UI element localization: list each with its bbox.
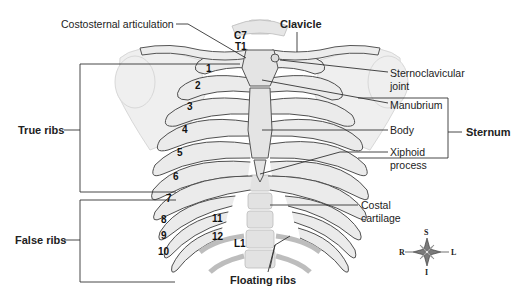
manubrium-label: Manubrium [390, 99, 443, 111]
compass-right-label: R [399, 248, 405, 257]
compass-superior-label: S [424, 228, 428, 237]
costal-cartilage-label-2: cartilage [361, 212, 401, 224]
costal-cartilage-label-1: Costal [361, 199, 391, 211]
rib-cage-illustration [0, 0, 523, 294]
rib-number-5: 5 [177, 147, 183, 158]
rib-number-3: 3 [187, 101, 193, 112]
sternal-body-shape [248, 88, 272, 158]
body-label: Body [390, 124, 414, 136]
rib-number-8: 8 [161, 214, 167, 225]
rib-number-7: 7 [166, 193, 172, 204]
compass-inferior-label: I [425, 268, 428, 277]
true-ribs-label: True ribs [18, 124, 64, 136]
xiphoid-process-label-2: process [390, 159, 427, 171]
rib-number-11: 11 [212, 213, 223, 224]
false-ribs-label: False ribs [15, 234, 66, 246]
sternoclavicular-joint-label-1: Sternoclavicular [390, 67, 465, 79]
compass-left-label: L [451, 248, 456, 257]
sternoclavicular-joint-label-2: joint [390, 80, 409, 92]
rib-number-12: 12 [212, 231, 223, 242]
vertebra-t1-label: T1 [235, 41, 247, 52]
rib-number-1: 1 [206, 63, 212, 74]
costosternal-articulation-label: Costosternal articulation [61, 18, 174, 30]
xiphoid-process-label-1: Xiphoid [390, 146, 425, 158]
compass-rose-icon [405, 238, 449, 266]
rib-number-6: 6 [173, 171, 179, 182]
rib-number-9: 9 [161, 230, 167, 241]
rib-number-10: 10 [158, 246, 169, 257]
floating-ribs-label: Floating ribs [230, 274, 296, 286]
rib-number-2: 2 [195, 80, 201, 91]
vertebra-c7-label: C7 [234, 30, 247, 41]
clavicle-label: Clavicle [280, 18, 322, 30]
sternum-label: Sternum [466, 126, 511, 138]
rib-number-4: 4 [182, 124, 188, 135]
vertebra-l1-label: L1 [234, 238, 246, 249]
